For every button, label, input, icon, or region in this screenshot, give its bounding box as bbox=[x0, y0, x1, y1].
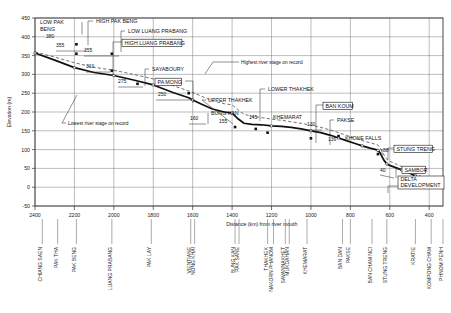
value-lower-thakhek: 145 bbox=[249, 114, 258, 120]
label-high-luang-prabang: HIGH LUANG PRABANG bbox=[125, 40, 185, 46]
leader-highest-stage bbox=[205, 62, 239, 74]
label-khemarat: KHEMARAT bbox=[273, 114, 303, 120]
x-tick-label: 2000 bbox=[108, 212, 120, 218]
x-tick-label: 1400 bbox=[226, 212, 238, 218]
station-label: LUANG PRABANG bbox=[107, 247, 113, 290]
river-profile-figure: 450400350300250200150100500-50Elevation … bbox=[0, 0, 451, 313]
x-tick-label: 1800 bbox=[147, 212, 159, 218]
station-label: PAK THA bbox=[53, 246, 59, 268]
station-label: KOMPONG CHAM bbox=[426, 247, 432, 289]
profile-point bbox=[191, 99, 194, 102]
station-label: PAKSE bbox=[345, 246, 351, 263]
value-sambor: 40 bbox=[380, 167, 386, 173]
label-khone-falls: KHONE FALLS bbox=[345, 135, 382, 141]
label-sambor: SAMBOR bbox=[405, 167, 428, 173]
x-tick-label: 1200 bbox=[266, 212, 278, 218]
y-tick-label: -50 bbox=[23, 203, 31, 209]
label-lowest-stage: Lowest river stage on record bbox=[68, 121, 129, 126]
y-axis-label: Elevation (m) bbox=[6, 96, 12, 127]
station-label: PAK LAY bbox=[146, 246, 152, 267]
x-tick-label: 2400 bbox=[29, 212, 41, 218]
label-pakse: PAKSE bbox=[337, 117, 355, 123]
station-label: STUNG TRENG bbox=[382, 247, 388, 283]
profile-point bbox=[73, 66, 76, 69]
y-tick-label: 400 bbox=[21, 34, 30, 40]
station-label: KRATIE bbox=[410, 246, 416, 264]
station-label: CHIANG SAEN bbox=[37, 247, 43, 282]
riverbed-low-stage-line bbox=[35, 53, 443, 186]
label-highest-stage: Highest river stage on record bbox=[241, 60, 303, 65]
project-marker bbox=[337, 135, 340, 138]
project-marker bbox=[234, 126, 237, 129]
value-low-pak-beng: 380 bbox=[46, 33, 55, 39]
y-tick-label: 50 bbox=[24, 165, 30, 171]
value-upper-thakhek: 155 bbox=[219, 118, 228, 124]
project-marker bbox=[187, 92, 190, 95]
station-labels: CHIANG SAENPAK THAPAK BENGLUANG PRABANGP… bbox=[37, 219, 444, 292]
x-tick-label: 1600 bbox=[187, 212, 199, 218]
y-axis: 450400350300250200150100500-50Elevation … bbox=[6, 15, 35, 209]
label-stung-treng: STUNG TRENG bbox=[397, 146, 435, 152]
profile-point bbox=[377, 149, 380, 152]
label-low-pak-beng-line2: BENG bbox=[40, 26, 55, 32]
station-label: BAN CHAM NCI bbox=[367, 247, 373, 283]
station-label: NONG KHAI bbox=[190, 247, 196, 275]
x-tick-label: 600 bbox=[385, 212, 394, 218]
profile-point bbox=[34, 52, 37, 55]
x-tick-label: 400 bbox=[425, 212, 434, 218]
chart-canvas: 450400350300250200150100500-50Elevation … bbox=[0, 0, 451, 313]
x-axis-label: Distance (km) from river mouth bbox=[226, 221, 297, 227]
label-lower-thakhek: LOWER THAKHEK bbox=[268, 86, 314, 92]
y-tick-label: 300 bbox=[21, 71, 30, 77]
label-sayaboury: SAYABOURY bbox=[152, 66, 185, 72]
label-upper-thakhek: UPPER THAKHEK bbox=[208, 97, 253, 103]
station-label: PHNOM PENH bbox=[438, 247, 444, 281]
y-tick-label: 350 bbox=[21, 53, 30, 59]
station-label: BAN DAN bbox=[337, 247, 343, 270]
y-tick-label: 0 bbox=[27, 184, 30, 190]
leader-sambor-tie bbox=[380, 175, 394, 178]
project-marker bbox=[136, 83, 139, 86]
value-high-luang-prabang: 310 bbox=[86, 63, 95, 69]
project-marker bbox=[310, 137, 313, 140]
project-marker bbox=[266, 131, 269, 134]
station-label: PAK BENG bbox=[71, 247, 77, 272]
value-high-pak-beng: 355 bbox=[56, 42, 65, 48]
label-high-pak-beng: HIGH PAK BENG bbox=[96, 18, 137, 24]
value-ban-koum: 136 bbox=[328, 136, 337, 142]
value-pa-mong: 250 bbox=[158, 91, 167, 97]
value-sayaboury: 275 bbox=[118, 78, 127, 84]
project-marker bbox=[75, 52, 78, 55]
y-tick-label: 150 bbox=[21, 128, 30, 134]
project-marker bbox=[75, 43, 78, 46]
grid bbox=[35, 18, 443, 206]
x-tick-label: 800 bbox=[346, 212, 355, 218]
project-marker bbox=[254, 128, 257, 131]
y-tick-label: 100 bbox=[21, 147, 30, 153]
leader-lowest-stage bbox=[62, 95, 77, 123]
station-label: NAKORN PHANOM bbox=[268, 247, 274, 292]
y-tick-label: 250 bbox=[21, 90, 30, 96]
leader-lower-thakhek bbox=[260, 89, 265, 121]
value-bung-kan-160: 160 bbox=[190, 115, 199, 121]
station-label: KHEMARAT bbox=[302, 247, 308, 274]
y-tick-label: 450 bbox=[21, 15, 30, 21]
leader-ban-koum bbox=[316, 105, 323, 143]
profile-point bbox=[386, 163, 389, 166]
x-axis: 2400220020001800160014001200100080060040… bbox=[29, 206, 433, 227]
label-low-pak-beng-line1: LOW PAK bbox=[40, 19, 64, 25]
station-label: PAK SANE bbox=[234, 246, 240, 271]
label-delta-development-line1: DELTA bbox=[401, 176, 418, 182]
value-low-luang-prabang: 355 bbox=[84, 47, 93, 53]
label-bung-kan: BUNG KAN bbox=[211, 110, 239, 116]
project-marker bbox=[377, 153, 380, 156]
x-tick-label: 2200 bbox=[69, 212, 81, 218]
value-khemarat: 130 bbox=[307, 121, 316, 127]
profile-point bbox=[152, 84, 155, 87]
x-tick-label: 1000 bbox=[305, 212, 317, 218]
label-low-luang-prabang: LOW LUANG PRABANG bbox=[128, 28, 187, 34]
label-ban-koum: BAN KOUM bbox=[326, 103, 354, 109]
label-delta-development-line2: DEVELOPMENT bbox=[401, 182, 442, 188]
profile-point bbox=[270, 125, 273, 128]
label-pa-mong: PA MONG bbox=[158, 79, 182, 85]
